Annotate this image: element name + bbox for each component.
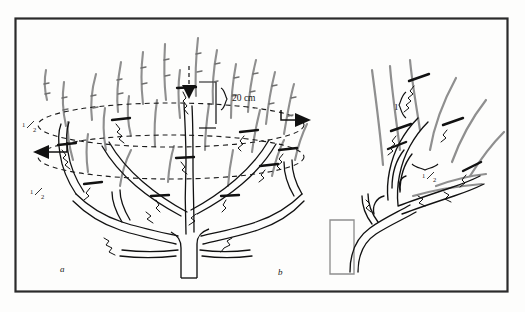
- fraction-right-numerator: 1: [422, 172, 425, 179]
- fraction-left-lower-denominator: 2: [41, 193, 44, 200]
- pruning-diagram-svg: a 1 2 1 2 20 cm: [0, 0, 525, 312]
- figure-background: [0, 0, 525, 312]
- panel-a-label: a: [60, 264, 65, 274]
- fraction-left-upper-numerator: 1: [22, 121, 25, 128]
- fraction-left-lower-numerator: 1: [30, 188, 33, 195]
- figure-root: a 1 2 1 2 20 cm: [0, 0, 525, 312]
- whole-unit-label: 1: [394, 102, 399, 112]
- panel-b-label: b: [278, 267, 283, 277]
- fraction-right-denominator: 2: [433, 176, 436, 183]
- fraction-left-upper-denominator: 2: [33, 126, 36, 133]
- measurement-label: 20 cm: [232, 93, 256, 103]
